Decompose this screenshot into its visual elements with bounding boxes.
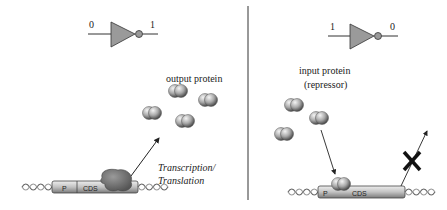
output-protein-icon [169,85,188,98]
gate-bubble [375,33,382,40]
promoter-label: P [62,185,67,192]
input-protein-label: input protein [299,65,350,76]
ribosome-icon [101,169,132,191]
left-dna-construct: P CDS [22,169,168,193]
dna-helix-icon [288,189,318,195]
right-dna-construct: P CDS [288,178,435,199]
gate-triangle [111,22,135,47]
bound-repressor-icon [332,178,351,191]
gate-bubble [136,31,143,38]
binding-arrow-icon [321,130,335,174]
cds-label: CDS [352,190,367,197]
repressor-protein-icon [310,112,329,125]
gate-input-value: 1 [330,21,335,32]
transcription-arrow-icon [131,138,159,176]
output-protein-label: output protein [166,73,222,84]
gate-input-value: 0 [89,19,94,30]
dna-helix-icon [405,189,435,195]
gate-output-value: 0 [390,21,395,32]
right-not-gate: 1 0 [328,21,398,49]
output-protein-icon [199,94,218,107]
cds-label: CDS [83,185,98,192]
genetic-inverter-diagram: 0 1 output protein Transcription/ Transl… [0,0,447,210]
blocked-x-icon [404,152,420,170]
repressor-protein-icon [285,99,304,112]
repressor-protein-icon [275,128,294,141]
promoter-label: P [323,190,328,197]
dna-helix-icon [22,184,52,190]
repressor-label: (repressor) [304,79,347,91]
left-not-gate: 0 1 [88,19,158,47]
output-protein-icon [176,115,195,128]
output-protein-icon [143,107,162,120]
transcription-label: Transcription/ [158,162,216,173]
gate-output-value: 1 [150,19,155,30]
gate-triangle [350,24,374,49]
